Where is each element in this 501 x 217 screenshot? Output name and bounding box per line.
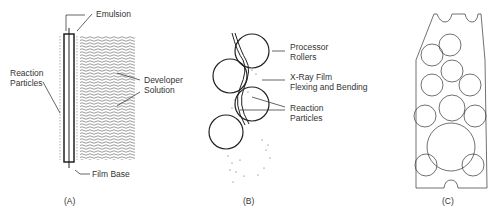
figure-film-processing: Emulsion Reaction Particles Developer So… bbox=[0, 0, 501, 217]
label-processor-rollers-1: Processor bbox=[290, 42, 328, 52]
label-xray-film-2: Flexing and Bending bbox=[290, 82, 368, 92]
label-developer-solution-1: Developer bbox=[144, 75, 183, 85]
label-emulsion: Emulsion bbox=[96, 9, 131, 19]
label-reaction-particles-a-2: Particles bbox=[10, 78, 43, 88]
caption-c: (C) bbox=[442, 196, 454, 206]
panel-b-graphic bbox=[209, 33, 285, 149]
label-reaction-particles-a-1: Reaction bbox=[10, 68, 44, 78]
caption-b: (B) bbox=[243, 196, 254, 206]
label-processor-rollers-2: Rollers bbox=[290, 52, 316, 62]
panel-c-graphic bbox=[414, 14, 487, 188]
particles bbox=[227, 69, 270, 182]
label-developer-solution-2: Solution bbox=[144, 85, 175, 95]
diagram-graphics bbox=[0, 0, 501, 217]
caption-a: (A) bbox=[64, 196, 75, 206]
label-reaction-particles-b-1: Reaction bbox=[290, 103, 324, 113]
label-reaction-particles-b-2: Particles bbox=[290, 113, 323, 123]
label-film-base: Film Base bbox=[92, 169, 130, 179]
panel-a-graphic bbox=[43, 14, 140, 174]
label-xray-film-1: X-Ray Film bbox=[290, 72, 332, 82]
